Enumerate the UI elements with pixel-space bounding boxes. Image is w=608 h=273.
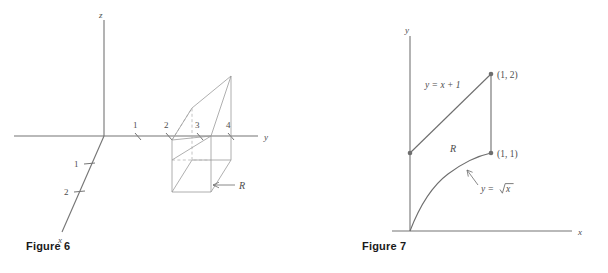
- point-dot-1-1: [489, 151, 494, 156]
- y-tick-label-1: 1: [133, 120, 138, 130]
- figure-6-panel: z y x 1 2 3 4 1 2: [0, 0, 304, 273]
- figure-7-caption: Figure 7: [362, 240, 406, 252]
- figures-page: z y x 1 2 3 4 1 2: [0, 0, 608, 273]
- region-label-r: R: [238, 180, 245, 191]
- region-label-r: R: [449, 143, 456, 154]
- z-axis-label: z: [98, 10, 103, 20]
- x-tick-mark-2: [74, 191, 85, 192]
- line-equation-label: y = x + 1: [424, 80, 461, 90]
- figure-6-graphic: z y x 1 2 3 4 1 2: [0, 0, 304, 273]
- x-axis-label: x: [577, 227, 582, 237]
- solid-slanted-top-face: [172, 76, 231, 140]
- point-dot-0-1: [408, 151, 413, 156]
- x-tick-mark-1: [84, 163, 95, 164]
- figure-7-graphic: y x (1, 2) (1, 1) y = x + 1 R: [304, 0, 608, 273]
- point-label-bottom: (1, 1): [497, 149, 518, 160]
- curve-equation-label: y = x: [480, 184, 514, 194]
- point-dot-1-2: [489, 72, 494, 77]
- curve-equation-radicand: x: [505, 184, 511, 194]
- x-tick-label-2: 2: [64, 187, 69, 197]
- curve-equation-prefix: y =: [480, 184, 494, 194]
- y-axis-label: y: [263, 132, 268, 142]
- figure-7-panel: y x (1, 2) (1, 1) y = x + 1 R: [304, 0, 608, 273]
- figure-6-caption: Figure 6: [26, 240, 70, 252]
- y-tick-label-2: 2: [164, 120, 169, 130]
- curve-y-equals-sqrt-x: [410, 153, 491, 231]
- solid-bottom-face: [172, 160, 231, 192]
- x-axis-line: [62, 136, 104, 232]
- point-label-top: (1, 2): [497, 70, 518, 81]
- y-axis-label: y: [404, 25, 409, 35]
- y-tick-label-3: 3: [195, 120, 200, 130]
- y-tick-label-4: 4: [226, 120, 231, 130]
- x-tick-label-1: 1: [74, 159, 79, 169]
